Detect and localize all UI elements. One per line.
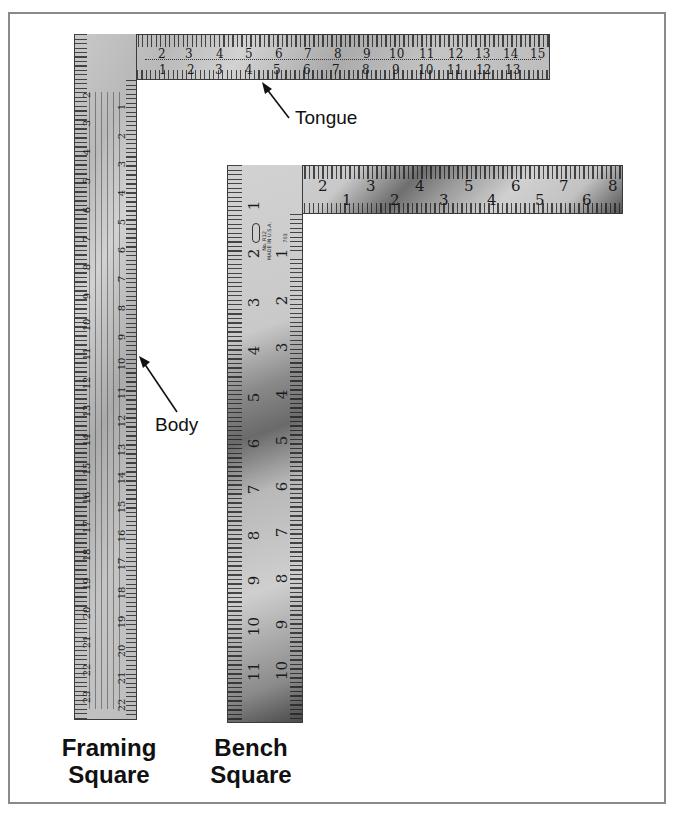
tongue-outer-4: 4 bbox=[216, 48, 224, 60]
bench-tongue-inner-6: 6 bbox=[582, 193, 592, 208]
tongue-outer-14: 14 bbox=[503, 48, 518, 60]
bench-body-inner-3: 3 bbox=[275, 343, 290, 353]
bench-body-inner-10: 10 bbox=[275, 661, 290, 680]
bench-body-outer-4: 4 bbox=[247, 346, 262, 356]
tongue-inner-10: 10 bbox=[418, 64, 433, 76]
bench-body-outer-6: 6 bbox=[247, 439, 262, 449]
framing-square-caption: Framing Square bbox=[44, 734, 174, 788]
body-inner-13: 13 bbox=[117, 444, 127, 457]
bench-square-body: No. R12 MADE IN U.S.A. 703 bbox=[227, 165, 303, 723]
tongue-inner-1: 1 bbox=[159, 64, 167, 76]
tongue-outer-3: 3 bbox=[185, 48, 193, 60]
tongue-outer-5: 5 bbox=[245, 48, 253, 60]
body-outer-12: 12 bbox=[82, 377, 92, 390]
body-outer-2: 2 bbox=[82, 92, 92, 98]
body-outer-14: 14 bbox=[82, 434, 92, 447]
framing-square-caption-line1: Framing bbox=[44, 734, 174, 761]
bench-body-outer-10: 10 bbox=[247, 617, 262, 636]
bench-tongue-outer-8: 8 bbox=[608, 179, 618, 194]
tongue-inner-5: 5 bbox=[273, 64, 281, 76]
body-inner-1: 1 bbox=[117, 104, 127, 110]
body-inner-9: 9 bbox=[117, 334, 127, 340]
bench-tongue-inner-1: 1 bbox=[342, 193, 352, 208]
body-outer-4: 4 bbox=[82, 149, 92, 155]
body-inner-14: 14 bbox=[117, 472, 127, 485]
tongue-inner-7: 7 bbox=[332, 64, 340, 76]
framing-square-tongue: 1 2 3 4 5 6 7 8 9 10 11 12 13 14 15 1 2 … bbox=[74, 34, 550, 80]
bench-square-caption-line1: Bench bbox=[196, 734, 306, 761]
tongue-outer-11: 11 bbox=[419, 48, 434, 60]
body-outer-15: 15 bbox=[82, 463, 92, 476]
bench-body-outer-5: 5 bbox=[247, 393, 262, 403]
body-outer-21: 21 bbox=[82, 636, 92, 649]
tongue-outer-9: 9 bbox=[363, 48, 371, 60]
body-inner-17: 17 bbox=[117, 558, 127, 571]
body-right-ticks bbox=[126, 80, 136, 719]
tongue-outer-10: 10 bbox=[389, 48, 404, 60]
bench-body-outer-8: 8 bbox=[247, 531, 262, 541]
body-outer-18: 18 bbox=[82, 549, 92, 562]
body-outer-6: 6 bbox=[82, 207, 92, 213]
body-outer-3: 3 bbox=[82, 120, 92, 126]
tongue-outer-15: 15 bbox=[530, 48, 545, 60]
body-outer-19: 19 bbox=[82, 578, 92, 591]
bench-square-caption-line2: Square bbox=[196, 761, 306, 788]
body-inner-2: 2 bbox=[117, 133, 127, 139]
body-inner-18: 18 bbox=[117, 587, 127, 600]
tongue-outer-13: 13 bbox=[475, 48, 490, 60]
body-inner-22: 22 bbox=[117, 699, 127, 712]
body-inner-15: 15 bbox=[117, 501, 127, 514]
bench-body-outer-11: 11 bbox=[247, 662, 262, 681]
bench-body-right-ticks bbox=[290, 214, 302, 722]
body-outer-11: 11 bbox=[82, 348, 92, 361]
body-inner-21: 21 bbox=[117, 672, 127, 685]
bench-body-outer-7: 7 bbox=[247, 485, 262, 495]
tongue-inner-6: 6 bbox=[303, 64, 311, 76]
bench-tongue-outer-4: 4 bbox=[415, 179, 425, 194]
bench-body-inner-1: 1 bbox=[275, 249, 290, 259]
body-inner-16: 16 bbox=[117, 530, 127, 543]
tongue-inner-8: 8 bbox=[362, 64, 370, 76]
bench-tongue-outer-5: 5 bbox=[464, 179, 474, 194]
body-outer-8: 8 bbox=[82, 264, 92, 270]
bench-tongue-outer-2: 2 bbox=[318, 179, 328, 194]
bench-body-inner-4: 4 bbox=[275, 390, 290, 400]
body-inner-8: 8 bbox=[117, 305, 127, 311]
body-outer-13: 13 bbox=[82, 405, 92, 418]
bench-tongue-inner-5: 5 bbox=[535, 193, 545, 208]
tongue-outer-6: 6 bbox=[275, 48, 283, 60]
bench-body-inner-2: 2 bbox=[275, 296, 290, 306]
framing-square-caption-line2: Square bbox=[44, 761, 174, 788]
body-outer-16: 16 bbox=[82, 492, 92, 505]
bench-square-caption: Bench Square bbox=[196, 734, 306, 788]
bench-stamp-origin: MADE IN U.S.A. bbox=[266, 222, 272, 260]
body-outer-17: 17 bbox=[82, 521, 92, 534]
bench-tongue-inner-3: 3 bbox=[439, 193, 449, 208]
body-outer-10: 10 bbox=[82, 319, 92, 332]
bench-body-inner-9: 9 bbox=[275, 620, 290, 630]
body-outer-23: 23 bbox=[82, 691, 92, 704]
body-inner-19: 19 bbox=[117, 616, 127, 629]
bench-tongue-outer-6: 6 bbox=[511, 179, 521, 194]
bench-body-outer-2: 2 bbox=[247, 249, 262, 259]
bench-body-outer-9: 9 bbox=[247, 576, 262, 586]
tongue-outer-2: 2 bbox=[158, 48, 166, 60]
body-inner-3: 3 bbox=[117, 161, 127, 167]
bench-body-inner-8: 8 bbox=[275, 574, 290, 584]
bench-tongue-inner-2: 2 bbox=[390, 193, 400, 208]
bench-body-outer-1: 1 bbox=[247, 201, 262, 211]
body-inner-10: 10 bbox=[117, 358, 127, 371]
bench-stamp-code: 703 bbox=[282, 233, 288, 243]
bench-tongue-inner-4: 4 bbox=[487, 193, 497, 208]
body-inner-20: 20 bbox=[117, 645, 127, 658]
bench-body-inner-7: 7 bbox=[275, 528, 290, 538]
tongue-top-ticks bbox=[75, 35, 549, 47]
tongue-inner-9: 9 bbox=[392, 64, 400, 76]
body-inner-6: 6 bbox=[117, 247, 127, 253]
body-label: Body bbox=[155, 414, 198, 436]
tongue-inner-13: 13 bbox=[505, 64, 520, 76]
tongue-inner-11: 11 bbox=[447, 64, 462, 76]
body-outer-7: 7 bbox=[82, 236, 92, 242]
body-inner-12: 12 bbox=[117, 415, 127, 428]
body-inner-11: 11 bbox=[117, 387, 127, 400]
